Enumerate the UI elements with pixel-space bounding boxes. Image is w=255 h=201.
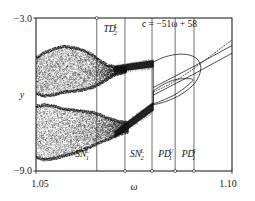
bifurcation-plot-svg: −3.0 −9.0 y 1.05 1.10 ω c = −51ω + 58 TD… (0, 0, 255, 201)
y-axis-tick-bottom: −9.0 (14, 165, 32, 176)
x-axis-label: ω (130, 181, 137, 192)
bifurcation-label-subscript: 1 (169, 154, 172, 161)
bifurcation-label-sn2l: SNL2 (130, 147, 145, 161)
y-axis-tick-top: −3.0 (14, 13, 32, 24)
bifurcation-label-sn1l: SNL1 (75, 147, 90, 161)
bifurcation-figure: −3.0 −9.0 y 1.05 1.10 ω c = −51ω + 58 TD… (0, 0, 255, 201)
bifurcation-label-subscript: 2 (114, 29, 117, 36)
bifurcation-label-subscript: 2 (141, 154, 144, 161)
bifurcation-label-td2l: TDL2 (103, 22, 118, 36)
bifurcation-label-pd1s: PDS1 (181, 147, 196, 161)
x-axis-tick-left: 1.05 (31, 178, 49, 189)
x-axis-tick-right: 1.10 (219, 178, 237, 189)
bifurcation-label-pd1u: PDU1 (157, 147, 174, 161)
bifurcation-label-subscript: 1 (192, 154, 195, 161)
y-axis-label: y (19, 89, 25, 100)
parameter-equation-annotation: c = −51ω + 58 (142, 19, 197, 29)
bifurcation-label-subscript: 1 (86, 154, 89, 161)
